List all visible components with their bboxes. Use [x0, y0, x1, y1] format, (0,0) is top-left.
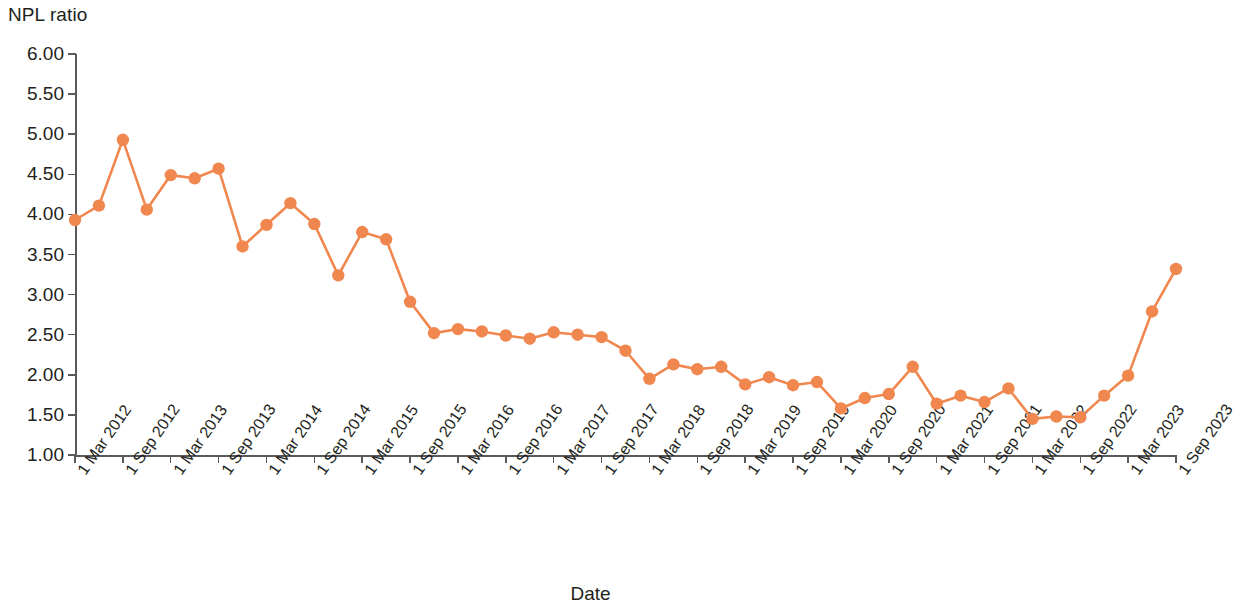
- data-point: [260, 219, 272, 231]
- data-point: [619, 345, 631, 357]
- data-point: [787, 379, 799, 391]
- data-point: [404, 296, 416, 308]
- data-point: [954, 389, 966, 401]
- data-point: [165, 169, 177, 181]
- data-point: [117, 134, 129, 146]
- data-point: [1146, 305, 1158, 317]
- data-point: [308, 218, 320, 230]
- data-point: [571, 329, 583, 341]
- data-point: [188, 172, 200, 184]
- data-point: [930, 397, 942, 409]
- data-point: [428, 327, 440, 339]
- data-point: [715, 361, 727, 373]
- data-point: [883, 388, 895, 400]
- data-point: [548, 326, 560, 338]
- data-point: [739, 378, 751, 390]
- data-point: [978, 396, 990, 408]
- data-point: [284, 197, 296, 209]
- data-point: [1074, 411, 1086, 423]
- data-point: [1170, 263, 1182, 275]
- data-point: [1026, 413, 1038, 425]
- data-point: [236, 240, 248, 252]
- data-point: [763, 371, 775, 383]
- data-point: [452, 323, 464, 335]
- data-point: [1098, 389, 1110, 401]
- data-point: [141, 203, 153, 215]
- data-point: [93, 199, 105, 211]
- data-point: [476, 325, 488, 337]
- data-point: [500, 329, 512, 341]
- data-point: [907, 361, 919, 373]
- data-point: [1050, 410, 1062, 422]
- data-point: [811, 376, 823, 388]
- data-point: [667, 358, 679, 370]
- data-point: [380, 233, 392, 245]
- data-point: [643, 373, 655, 385]
- data-point: [1002, 382, 1014, 394]
- series-line: [75, 140, 1176, 419]
- data-point: [69, 214, 81, 226]
- data-point: [212, 162, 224, 174]
- data-point: [356, 226, 368, 238]
- data-point: [524, 333, 536, 345]
- data-point: [1122, 369, 1134, 381]
- data-point: [859, 392, 871, 404]
- data-point: [835, 402, 847, 414]
- data-point: [691, 363, 703, 375]
- data-point: [595, 331, 607, 343]
- data-point: [332, 269, 344, 281]
